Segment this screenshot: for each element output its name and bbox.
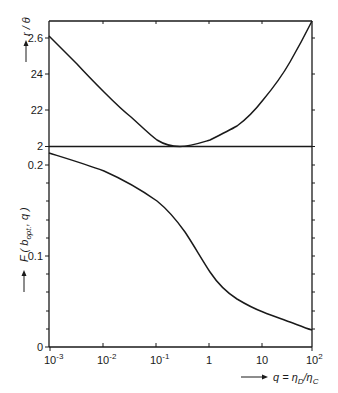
xtick-1e-3: 10-3 [44, 352, 64, 366]
figure: 2.6 24 22 2 0.2 0.1 0 10-3 10-2 10-1 1 1… [0, 0, 338, 393]
lower-ytick-0: 0 [37, 341, 43, 353]
upper-curve-r-theta [49, 21, 312, 147]
upper-y-ticks [45, 38, 315, 147]
lower-ytick-0.2: 0.2 [28, 159, 43, 171]
xtick-10: 10 [256, 354, 268, 366]
svg-text:r / θ: r / θ [20, 17, 32, 36]
xtick-1e2: 102 [306, 352, 323, 366]
xtick-1e-1: 10-1 [150, 352, 170, 366]
x-axis-title: q = ηD/ηC [241, 371, 319, 386]
xtick-1e-2: 10-2 [97, 352, 117, 366]
xtick-1: 1 [206, 354, 212, 366]
lower-y-ticks [45, 165, 315, 347]
upper-panel-frame [49, 21, 312, 347]
svg-text:q = ηD/ηC: q = ηD/ηC [273, 371, 319, 386]
lower-curve-F [49, 153, 312, 330]
upper-ytick-2: 2 [37, 140, 43, 152]
upper-ytick-2.2: 22 [31, 104, 43, 116]
upper-ytick-2.4: 24 [31, 68, 43, 80]
